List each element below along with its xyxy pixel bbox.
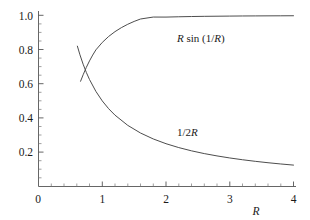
chart-canvas: 1.0 0.8 0.6 0.4 0.2 0 1 2 3 4 R R sin (1… — [0, 0, 310, 220]
y-tick-label-1-0: 1.0 — [19, 10, 34, 22]
x-tick-label-2: 2 — [163, 193, 169, 205]
y-tick-label-0-2: 0.2 — [19, 146, 34, 158]
y-tick-label-0-4: 0.4 — [19, 112, 34, 124]
chart-figure: 1.0 0.8 0.6 0.4 0.2 0 1 2 3 4 R R sin (1… — [0, 0, 310, 220]
x-axis-title: R — [251, 205, 259, 217]
y-axis-major-ticks — [39, 15, 44, 152]
x-axis-major-ticks — [102, 182, 293, 187]
x-tick-label-1: 1 — [99, 193, 105, 205]
x-tick-label-4: 4 — [291, 193, 297, 205]
y-tick-label-0-6: 0.6 — [19, 78, 34, 90]
curve-label-lower: 1/2R — [177, 126, 198, 138]
curve-r-sin-one-over-r — [81, 16, 294, 82]
x-tick-label-3: 3 — [227, 193, 233, 205]
curve-label-upper: R sin (1/R) — [176, 32, 225, 45]
origin-tick-label: 0 — [35, 193, 41, 205]
y-tick-label-0-8: 0.8 — [19, 44, 34, 56]
curve-one-over-two-r — [77, 46, 293, 165]
